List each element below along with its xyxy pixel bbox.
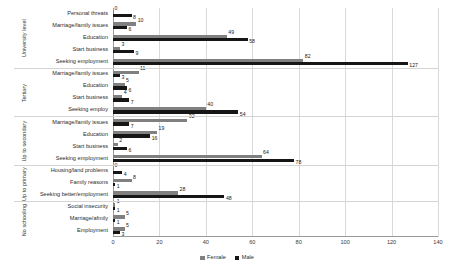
bar-value-female: 28 xyxy=(180,187,186,192)
gridline xyxy=(345,8,346,237)
bar-value-male: 6 xyxy=(128,27,131,32)
category-label-column: Personal threatsMarriage/family issuesEd… xyxy=(34,8,111,237)
group-band-label: No schooling xyxy=(21,204,27,236)
bar-value-female: 5 xyxy=(126,223,129,228)
group-band-label: University level xyxy=(21,19,27,57)
x-axis-tick-label: 120 xyxy=(387,239,396,245)
group-separator xyxy=(14,68,438,69)
category-label: Seeking employment xyxy=(56,156,108,162)
group-label-gutter: University levelTertiaryUp to secondaryU… xyxy=(14,8,34,237)
bar-value-female: 49 xyxy=(228,30,234,35)
bar-value-female: 3 xyxy=(121,42,124,47)
gridline xyxy=(299,8,300,237)
bar-male xyxy=(113,231,120,234)
x-axis-tick-label: 20 xyxy=(156,239,162,245)
category-label: Start business xyxy=(73,144,108,150)
x-axis-tick-label: 60 xyxy=(249,239,255,245)
bar-male xyxy=(113,74,120,77)
bar-value-female: 8 xyxy=(133,175,136,180)
category-label: Social insecurity xyxy=(68,204,108,210)
bar-value-male: 7 xyxy=(131,124,134,129)
bar-male xyxy=(113,98,129,101)
group-band-up-to-primary: Up to primary xyxy=(14,165,34,202)
x-axis-ticks: 020406080100120140 xyxy=(113,239,438,251)
x-axis-tick-label: 100 xyxy=(340,239,349,245)
category-label: Education xyxy=(83,132,108,138)
bar-male xyxy=(113,50,134,53)
legend-item-female: Female xyxy=(200,255,226,261)
bar-value-female: 0 xyxy=(115,6,118,11)
bar-male xyxy=(113,195,224,198)
group-band-university-level: University level xyxy=(14,8,34,68)
bar-value-male: 3 xyxy=(121,75,124,80)
category-label: Education xyxy=(83,83,108,89)
gridline xyxy=(159,8,160,237)
category-label: Start business xyxy=(73,47,108,53)
bar-value-female: 2 xyxy=(119,138,122,143)
category-label: Seeking employ xyxy=(68,107,108,113)
category-label: Marriage/family issues xyxy=(52,23,108,29)
bar-value-female: 5 xyxy=(126,78,129,83)
category-label: Marriage/afmily xyxy=(70,216,108,222)
bar-value-male: 1 xyxy=(117,208,120,213)
bar-value-female: 64 xyxy=(263,150,269,155)
legend-label-male: Male xyxy=(242,255,254,261)
category-label: Marriage/family issues xyxy=(52,120,108,126)
bar-value-male: 1 xyxy=(117,220,120,225)
bar-male xyxy=(113,171,122,174)
bar-male xyxy=(113,183,115,186)
bar-male xyxy=(113,38,248,41)
x-axis-tick-label: 0 xyxy=(111,239,114,245)
x-axis-baseline xyxy=(113,236,438,237)
x-axis-tick-label: 40 xyxy=(203,239,209,245)
category-label: Employment xyxy=(77,228,108,234)
category-label: Housing/land problems xyxy=(51,168,108,174)
bar-male xyxy=(113,122,129,125)
grouped-bar-chart: University levelTertiaryUp to secondaryU… xyxy=(0,0,454,271)
legend-swatch-female-icon xyxy=(200,256,205,261)
group-band-tertiary: Tertiary xyxy=(14,68,34,117)
category-label: Seeking better/employment xyxy=(40,192,108,198)
bar-male xyxy=(113,159,294,162)
group-band-label: Tertiary xyxy=(21,84,27,102)
plot-area: 0810649583982127113564740543271916266478… xyxy=(113,8,438,237)
bar-value-female: 82 xyxy=(305,54,311,59)
category-label: Family reasons xyxy=(70,180,108,186)
category-label: Start business xyxy=(73,95,108,101)
bar-value-male: 7 xyxy=(131,100,134,105)
bar-value-male: 58 xyxy=(249,39,255,44)
bar-male xyxy=(113,147,127,150)
bar-male xyxy=(113,62,408,65)
bar-value-male: 1 xyxy=(117,184,120,189)
bar-value-male: 9 xyxy=(135,51,138,56)
bar-value-male: 4 xyxy=(124,172,127,177)
bar-male xyxy=(113,26,127,29)
group-band-label: Up to primary xyxy=(21,167,27,201)
bar-male xyxy=(113,14,132,17)
legend-label-female: Female xyxy=(207,255,226,261)
group-band-no-schooling: No schooling xyxy=(14,201,34,238)
group-band-up-to-secondary: Up to secondary xyxy=(14,116,34,165)
bar-value-male: 6 xyxy=(128,88,131,93)
bar-female xyxy=(113,179,132,182)
bar-value-female: 10 xyxy=(138,18,144,23)
category-label: Marriage/family issues xyxy=(52,71,108,77)
group-separator xyxy=(14,116,438,117)
gridline xyxy=(438,8,439,237)
x-axis-tick-label: 140 xyxy=(433,239,442,245)
bar-value-female: 5 xyxy=(126,211,129,216)
bar-value-male: 8 xyxy=(133,15,136,20)
bar-value-female: 40 xyxy=(207,102,213,107)
group-separator xyxy=(14,201,438,202)
category-label: Personal threats xyxy=(67,11,108,17)
group-band-label: Up to secondary xyxy=(21,121,27,162)
gridline xyxy=(392,8,393,237)
gridline xyxy=(206,8,207,237)
bar-male xyxy=(113,110,238,113)
category-label: Education xyxy=(83,35,108,41)
bar-value-female: 4 xyxy=(124,90,127,95)
legend: Female Male xyxy=(0,255,454,261)
bar-value-female: 19 xyxy=(159,126,165,131)
x-axis-tick-label: 80 xyxy=(296,239,302,245)
bar-male xyxy=(113,219,115,222)
